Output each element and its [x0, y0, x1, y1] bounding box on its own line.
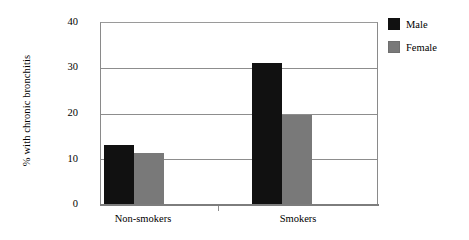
y-tick-label-30: 30	[38, 62, 78, 73]
x-label-non-smokers: Non-smokers	[93, 213, 193, 224]
y-axis-title: % with chronic bronchitis	[21, 11, 32, 211]
bar-smokers-male	[252, 63, 282, 204]
bar-non-smokers-male	[104, 145, 134, 204]
legend-label-male: Male	[406, 19, 428, 30]
x-axis-center-tick	[218, 206, 219, 211]
plot-area	[100, 22, 378, 205]
legend-label-female: Female	[406, 42, 437, 53]
y-tick-label-0: 0	[38, 199, 78, 210]
x-axis-line	[100, 204, 379, 206]
male-swatch-icon	[388, 18, 400, 30]
gridline-30	[101, 68, 377, 69]
female-swatch-icon	[388, 41, 400, 53]
legend: Male Female	[388, 14, 437, 60]
legend-item-male: Male	[388, 14, 437, 34]
legend-item-female: Female	[388, 37, 437, 57]
bar-chart: % with chronic bronchitis 40 30 20 10 0 …	[0, 0, 469, 240]
gridline-20	[101, 114, 377, 115]
y-tick-label-10: 10	[38, 154, 78, 165]
x-label-smokers: Smokers	[248, 213, 348, 224]
bar-non-smokers-female	[134, 153, 164, 204]
y-tick-label-40: 40	[38, 17, 78, 28]
y-tick-label-20: 20	[38, 108, 78, 119]
bar-smokers-female	[282, 115, 312, 204]
